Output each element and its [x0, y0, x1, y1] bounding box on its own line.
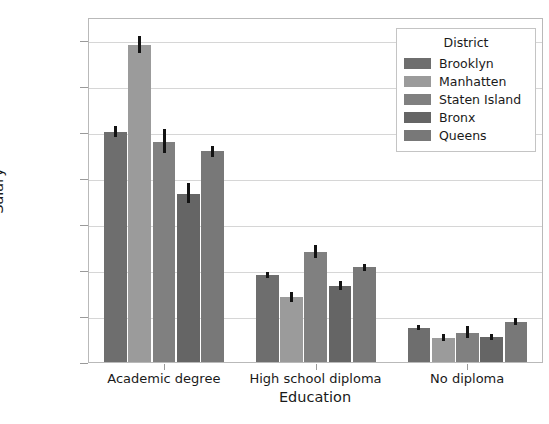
legend-swatch — [404, 94, 431, 105]
error-bar — [442, 334, 445, 341]
y-axis-tick-mark — [80, 41, 88, 42]
error-bar — [290, 292, 293, 302]
legend-entry[interactable]: Manhatten — [404, 72, 528, 90]
legend-swatch — [404, 130, 431, 141]
error-bar — [314, 245, 317, 258]
legend-entry-group: BrooklynManhattenStaten IslandBronxQueen… — [404, 54, 528, 144]
y-axis-tick-mark — [80, 317, 88, 318]
bar — [201, 151, 224, 362]
error-bar — [211, 146, 214, 157]
x-axis-tick-label: No diploma — [430, 371, 504, 386]
legend-label: Manhatten — [439, 74, 506, 89]
legend-title: District — [404, 35, 528, 50]
x-axis-tick-label: High school diploma — [249, 371, 381, 386]
legend-swatch — [404, 76, 431, 87]
bar — [408, 328, 431, 362]
error-bar — [339, 281, 342, 290]
y-axis-tick-mark — [80, 179, 88, 180]
legend-entry[interactable]: Brooklyn — [404, 54, 528, 72]
error-bar — [466, 326, 469, 338]
error-bar — [138, 36, 141, 53]
legend-swatch — [404, 112, 431, 123]
legend-label: Bronx — [439, 110, 475, 125]
bar-chart-figure: Salary 010000200003000040000500006000070… — [0, 0, 549, 424]
error-bar — [490, 334, 493, 340]
y-axis-tick-mark — [80, 271, 88, 272]
bar — [505, 322, 528, 362]
x-axis-tick-mark — [467, 364, 468, 370]
bar — [128, 45, 151, 362]
legend-swatch — [404, 58, 431, 69]
legend-label: Queens — [439, 128, 487, 143]
y-axis-tick-mark — [80, 225, 88, 226]
bar — [353, 267, 376, 362]
bar — [480, 337, 503, 362]
error-bar — [417, 325, 420, 331]
legend-label: Staten Island — [439, 92, 521, 107]
error-bar — [114, 126, 117, 138]
bar — [256, 275, 279, 362]
y-axis-label: Salary — [0, 168, 6, 214]
x-axis-tick-label: Academic degree — [107, 371, 220, 386]
error-bar — [363, 264, 366, 271]
legend-entry[interactable]: Queens — [404, 126, 528, 144]
bar — [432, 338, 455, 362]
x-axis-tick-mark — [316, 364, 317, 370]
y-axis-tick-mark — [80, 363, 88, 364]
error-bar — [187, 183, 190, 203]
legend-entry[interactable]: Staten Island — [404, 90, 528, 108]
bar — [280, 297, 303, 362]
bar — [177, 194, 200, 362]
bar — [153, 142, 176, 362]
bar — [329, 286, 352, 362]
x-axis-label: Education — [279, 389, 351, 405]
error-bar — [266, 272, 269, 278]
legend: District BrooklynManhattenStaten IslandB… — [396, 28, 536, 152]
y-axis-tick-mark — [80, 87, 88, 88]
legend-entry[interactable]: Bronx — [404, 108, 528, 126]
error-bar — [514, 318, 517, 324]
x-axis-tick-mark — [164, 364, 165, 370]
bar — [304, 252, 327, 362]
legend-label: Brooklyn — [439, 56, 494, 71]
y-axis-tick-mark — [80, 133, 88, 134]
error-bar — [163, 129, 166, 153]
bar — [104, 132, 127, 362]
